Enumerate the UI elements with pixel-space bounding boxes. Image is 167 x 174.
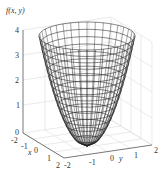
y-axis-line [64, 145, 152, 158]
x-tick-neg2: -2 [11, 136, 18, 145]
y-tick-neg1: -1 [89, 158, 96, 167]
surface-plot: f(x, y) 4 3 2 1 0 -2 -1 x 0 1 2 -2 -1 0 … [0, 0, 167, 174]
y-tick-2: 2 [154, 146, 158, 155]
z-tick-1: 1 [16, 101, 20, 110]
x-tick-neg1: -1 [21, 142, 28, 151]
x-tick-0: 0 [34, 146, 38, 155]
z-tick-3: 3 [15, 51, 19, 60]
paraboloid-mesh [39, 22, 135, 146]
x-tick-1: 1 [47, 154, 51, 163]
plot-canvas: f(x, y) 4 3 2 1 0 -2 -1 x 0 1 2 -2 -1 0 … [0, 0, 167, 174]
y-axis-label: y [118, 154, 123, 163]
y-tick-neg2: -2 [64, 161, 71, 170]
z-tick-2: 2 [15, 76, 19, 85]
z-axis-label: f(x, y) [6, 6, 25, 15]
back-grid [23, 17, 152, 158]
x-tick-2: 2 [56, 161, 60, 170]
y-tick-0: 0 [110, 154, 114, 163]
z-tick-4: 4 [15, 26, 19, 35]
y-tick-1: 1 [134, 151, 138, 160]
x-axis-label: x [27, 148, 32, 157]
